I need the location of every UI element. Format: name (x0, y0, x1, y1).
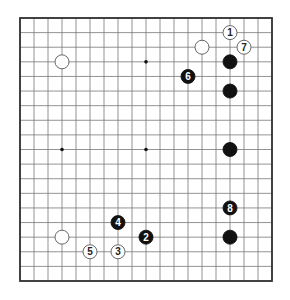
stone-circle (55, 230, 69, 244)
star-point (60, 148, 64, 152)
black-stone (223, 143, 237, 157)
white-stone-1: 1 (223, 26, 237, 40)
move-number: 8 (227, 203, 233, 214)
black-stone (223, 230, 237, 244)
white-stone-7: 7 (237, 40, 251, 54)
stone-circle (195, 40, 209, 54)
stones-layer: 17684253 (55, 26, 251, 259)
black-stone-6: 6 (181, 69, 195, 83)
stone-circle (223, 143, 237, 157)
black-stone-2: 2 (139, 230, 153, 244)
black-stone (223, 55, 237, 69)
move-number: 6 (185, 71, 191, 82)
move-number: 1 (227, 27, 233, 38)
move-number: 7 (241, 42, 247, 53)
white-stone-3: 3 (111, 245, 125, 259)
move-number: 3 (115, 246, 121, 257)
star-point (144, 148, 148, 152)
white-stone (195, 40, 209, 54)
white-stone-5: 5 (83, 245, 97, 259)
move-number: 2 (143, 232, 149, 243)
black-stone (223, 84, 237, 98)
stone-circle (223, 230, 237, 244)
move-number: 4 (115, 217, 121, 228)
white-stone (55, 230, 69, 244)
move-number: 5 (87, 246, 93, 257)
black-stone-4: 4 (111, 216, 125, 230)
go-board: 17684253 (0, 0, 290, 300)
stone-circle (223, 84, 237, 98)
stone-circle (55, 55, 69, 69)
white-stone (55, 55, 69, 69)
black-stone-8: 8 (223, 201, 237, 215)
stone-circle (223, 55, 237, 69)
star-point (144, 60, 148, 64)
